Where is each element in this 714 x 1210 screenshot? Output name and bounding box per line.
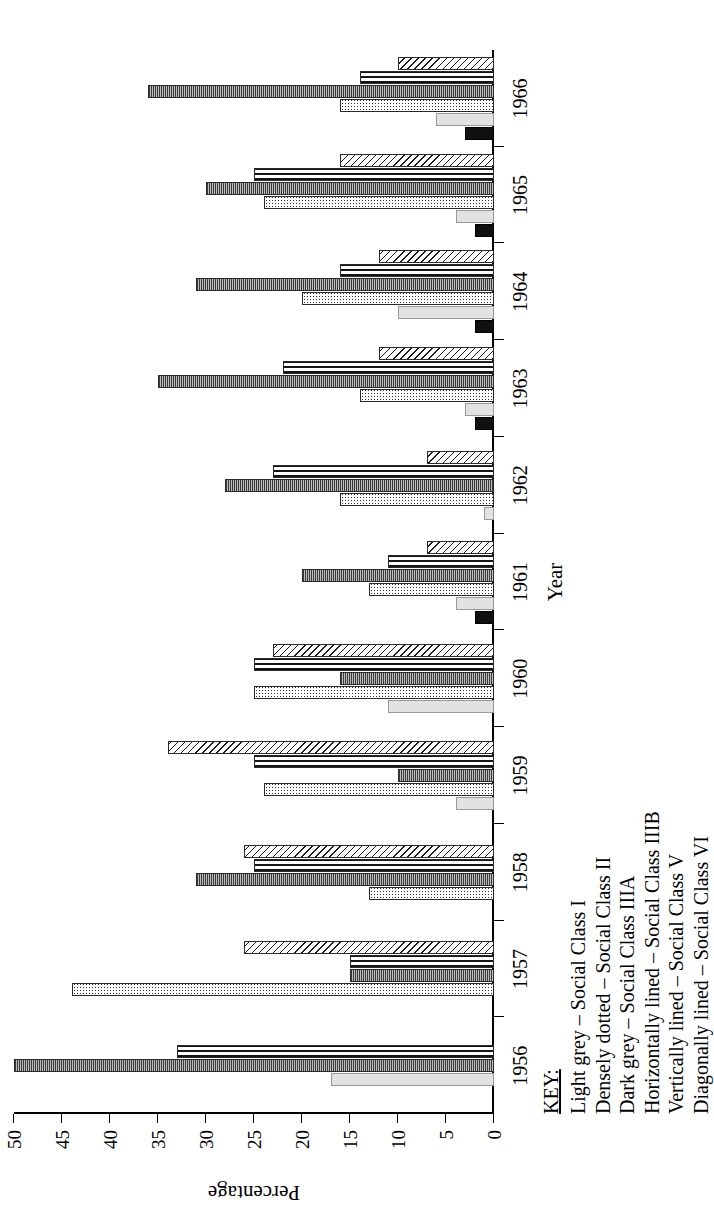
- bar: [456, 210, 494, 223]
- bar: [379, 347, 494, 360]
- bar: [196, 873, 494, 886]
- chart-key: KEY: Light grey – Social Class IDensely …: [540, 114, 714, 1114]
- bar: [340, 154, 494, 167]
- key-entry-label: Vertically lined – Social Class V: [664, 854, 689, 1114]
- bar: [331, 1073, 494, 1086]
- x-axis-tick: [494, 339, 504, 340]
- bar: [350, 969, 494, 982]
- x-axis-tick: [494, 823, 504, 824]
- y-axis-tick: 5: [445, 1114, 446, 1123]
- bar: [244, 941, 494, 954]
- x-axis-tick-label: 1962: [509, 465, 532, 505]
- y-axis-tick-label: 5: [436, 1130, 455, 1140]
- bar-group: 1963: [14, 340, 494, 437]
- bar: [254, 859, 494, 872]
- bar: [360, 71, 494, 84]
- x-axis-tick: [494, 1016, 504, 1017]
- y-axis-tick-label: 30: [196, 1130, 215, 1149]
- bar: [254, 686, 494, 699]
- bar: [475, 417, 494, 430]
- x-axis-tick: [494, 146, 504, 147]
- y-axis-tick: 40: [109, 1114, 110, 1123]
- bar: [340, 99, 494, 112]
- y-axis-tick-label: 45: [52, 1130, 71, 1149]
- y-axis-tick: 45: [61, 1114, 62, 1123]
- bar: [427, 451, 494, 464]
- key-entry-label: Light grey – Social Class I: [566, 900, 591, 1114]
- y-axis-tick-label: 20: [292, 1130, 311, 1149]
- y-axis-tick: 35: [157, 1114, 158, 1123]
- bar: [168, 741, 494, 754]
- x-axis-tick-label: 1961: [509, 562, 532, 602]
- bar: [340, 672, 494, 685]
- bar: [177, 1045, 494, 1058]
- bar: [475, 320, 494, 333]
- y-axis-tick: 50: [13, 1114, 14, 1123]
- x-axis-tick: [494, 436, 504, 437]
- bar: [379, 250, 494, 263]
- bar: [225, 479, 494, 492]
- x-axis-tick-label: 1964: [509, 272, 532, 312]
- bar: [273, 644, 494, 657]
- x-axis-tick: [494, 533, 504, 534]
- bar-group: 1964: [14, 243, 494, 340]
- bar: [398, 769, 494, 782]
- y-axis-label: Percentage: [208, 1180, 300, 1205]
- bar: [369, 887, 494, 900]
- bar-group: 1959: [14, 727, 494, 824]
- bar-group: 1966: [14, 50, 494, 147]
- bar: [369, 583, 494, 596]
- bar: [475, 611, 494, 624]
- bar: [398, 306, 494, 319]
- bar: [254, 755, 494, 768]
- bar: [388, 555, 494, 568]
- key-entries: Light grey – Social Class IDensely dotte…: [566, 114, 714, 1114]
- bar: [484, 507, 494, 520]
- x-axis-tick-label: 1956: [509, 1046, 532, 1086]
- key-entry: Densely dotted – Social Class II: [591, 114, 616, 1114]
- bar: [264, 196, 494, 209]
- bar-group: 1962: [14, 437, 494, 534]
- bar: [360, 389, 494, 402]
- key-entry: Vertically lined – Social Class V: [664, 114, 689, 1114]
- bar: [244, 845, 494, 858]
- key-entry: Light grey – Social Class I: [566, 114, 591, 1114]
- x-axis-tick-label: 1960: [509, 659, 532, 699]
- bar-group: 1957: [14, 921, 494, 1018]
- y-axis-tick-label: 10: [388, 1130, 407, 1149]
- x-axis-tick-label: 1965: [509, 175, 532, 215]
- bar: [340, 264, 494, 277]
- bar: [398, 57, 494, 70]
- y-axis-tick: 10: [397, 1114, 398, 1123]
- x-axis-tick-label: 1966: [509, 78, 532, 118]
- key-entry-label: Densely dotted – Social Class II: [591, 857, 616, 1114]
- bar: [340, 493, 494, 506]
- bar: [283, 361, 494, 374]
- y-axis-tick-label: 50: [4, 1130, 23, 1149]
- bar: [436, 113, 494, 126]
- bar: [196, 278, 494, 291]
- plot-area: 05101520253035404550 1956195719581959196…: [14, 50, 494, 1114]
- key-entry-label: Diagonally lined – Social Class VI: [689, 836, 714, 1114]
- x-axis-tick-label: 1963: [509, 369, 532, 409]
- y-axis-tick: 15: [349, 1114, 350, 1123]
- y-axis-tick-label: 35: [148, 1130, 167, 1149]
- bar: [254, 168, 494, 181]
- x-axis-tick: [494, 629, 504, 630]
- key-entry: Diagonally lined – Social Class VI: [689, 114, 714, 1114]
- bar: [456, 597, 494, 610]
- bar-group: 1961: [14, 534, 494, 631]
- bar-group: 1960: [14, 630, 494, 727]
- y-axis-tick-label: 0: [484, 1130, 503, 1140]
- key-entry: Dark grey – Social Class IIIA: [615, 114, 640, 1114]
- y-axis-tick: 20: [301, 1114, 302, 1123]
- bar: [350, 955, 494, 968]
- bar: [302, 292, 494, 305]
- x-axis-tick-label: 1958: [509, 852, 532, 892]
- bar: [388, 700, 494, 713]
- y-axis-tick: 30: [205, 1114, 206, 1123]
- key-entry-label: Dark grey – Social Class IIIA: [615, 876, 640, 1114]
- bar: [264, 783, 494, 796]
